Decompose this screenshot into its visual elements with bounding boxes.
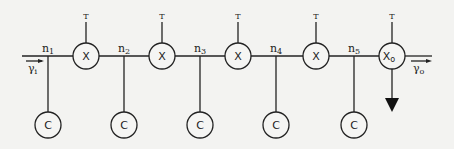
chain-diagram: γi γo n1 C X T n2 C X T n3 C X T	[0, 0, 454, 149]
top-label: T	[313, 12, 319, 21]
top-label: T	[83, 12, 89, 21]
node-label-n1: n1	[42, 42, 54, 56]
node-label-n2: n2	[118, 42, 130, 56]
top-label: T	[389, 12, 395, 21]
unit-2: n2 C X T	[111, 12, 175, 138]
unit-label: X	[312, 50, 320, 63]
top-label: T	[159, 12, 165, 21]
unit-label: X	[234, 50, 242, 63]
node-label-n4: n4	[270, 42, 282, 56]
unit-3: n3 C X T	[187, 12, 251, 138]
cell-label: C	[350, 119, 358, 132]
unit-4: n4 C X T	[263, 12, 329, 138]
unit-label: X	[158, 50, 166, 63]
cell-label: C	[44, 119, 52, 132]
node-label-n3: n3	[194, 42, 206, 56]
cell-label: C	[120, 119, 128, 132]
cell-label: C	[196, 119, 204, 132]
input-label: γi	[28, 62, 38, 76]
cell-label: C	[272, 119, 280, 132]
node-label-n5: n5	[348, 42, 360, 56]
down-arrow-icon	[385, 69, 399, 112]
unit-5: n5 C Xo T	[341, 12, 405, 138]
unit-label: X	[82, 50, 90, 63]
top-label: T	[235, 12, 241, 21]
unit-1: n1 C X T	[35, 12, 99, 138]
output-label: γo	[413, 62, 425, 76]
